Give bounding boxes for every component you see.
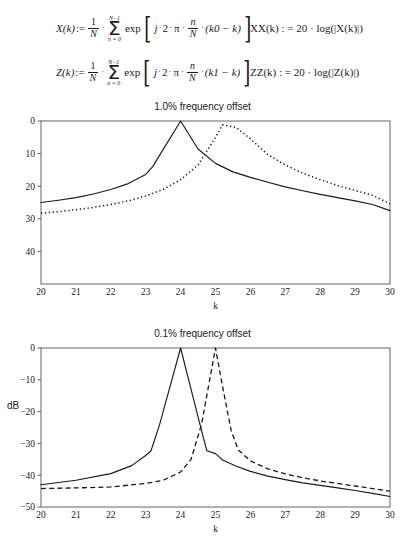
x-tick-label: 21 xyxy=(71,287,81,297)
formula-x-lhs: X(k) xyxy=(56,22,75,34)
formula-z-arg-pi: π xyxy=(173,66,181,78)
formula-z-frac-denominator: N xyxy=(88,72,99,84)
formula-x-exponent-argument: j · 2 · π · n N · (k0 − k) xyxy=(153,17,243,39)
y-tick-label: 10 xyxy=(26,149,36,159)
formula-block: X(k) := 1 N · N−1 Σ n = 0 exp [ j · 2 · … xyxy=(0,0,405,96)
x-tick-label: 28 xyxy=(315,287,325,297)
formula-x-arg-frac-denominator: N xyxy=(188,28,199,40)
series-line-solid xyxy=(41,121,390,211)
multiplication-dot-icon: · xyxy=(200,66,205,76)
formula-x-frac-denominator: N xyxy=(88,28,99,40)
x-tick-label: 22 xyxy=(106,287,116,297)
formula-z-arg-n-over-n: n N xyxy=(187,61,198,83)
multiplication-dot-icon: · xyxy=(157,66,162,76)
x-tick-label: 23 xyxy=(141,510,151,520)
x-tick-label: 21 xyxy=(71,510,81,520)
y-tick-label: −30 xyxy=(20,439,35,449)
y-tick-label: −50 xyxy=(20,502,35,512)
formula-z-arg-tail: (k1 − k) xyxy=(205,66,241,78)
x-tick-label: 23 xyxy=(141,287,151,297)
y-tick-label: −40 xyxy=(20,471,35,481)
formula-x-sum-lower-limit: n = 0 xyxy=(108,36,121,42)
formula-x-arg-tail: (k0 − k) xyxy=(205,22,241,34)
formula-x-arg-n-over-n: n N xyxy=(188,17,199,39)
formula-zz-text: ZZ(k) : = 20 · log(|Z(k)|) xyxy=(250,66,359,78)
formula-z-lhs: Z(k) xyxy=(56,66,74,78)
y-tick-label: 0 xyxy=(30,343,35,353)
x-tick-label: 20 xyxy=(36,287,46,297)
x-axis-title: k xyxy=(213,524,218,534)
formula-x-summation: N−1 Σ n = 0 xyxy=(108,15,121,42)
formula-x-exp-function: exp xyxy=(125,22,141,34)
series-line-dotted xyxy=(41,125,390,213)
formula-row-x-definition: X(k) := 1 N · N−1 Σ n = 0 exp [ j · 2 · … xyxy=(0,6,405,50)
multiplication-dot-icon: · xyxy=(100,66,105,76)
summation-sigma-icon: Σ xyxy=(107,64,120,81)
formula-x-frac-numerator: 1 xyxy=(89,17,98,28)
formula-x-arg-pi: π xyxy=(173,22,181,34)
multiplication-dot-icon: · xyxy=(158,22,163,32)
left-square-bracket-icon: [ xyxy=(144,16,151,40)
x-tick-label: 26 xyxy=(246,287,256,297)
formula-zz-definition: ZZ(k) : = 20 · log(|Z(k)|) xyxy=(250,50,359,94)
formula-z-arg-frac-numerator: n xyxy=(188,61,197,72)
formula-x-arg-frac-numerator: n xyxy=(189,17,198,28)
x-tick-label: 20 xyxy=(36,510,46,520)
multiplication-dot-icon: · xyxy=(168,22,173,32)
x-tick-label: 29 xyxy=(350,510,360,520)
formula-z-frac-numerator: 1 xyxy=(88,61,97,72)
summation-sigma-icon: Σ xyxy=(108,20,121,37)
formula-z-summation: N−1 Σ n = 0 xyxy=(107,59,120,86)
formula-row-z-definition: Z(k) := 1 N · N−1 Σ n = 0 exp [ j · 2 · … xyxy=(0,50,405,94)
y-tick-label: −10 xyxy=(20,375,35,385)
formula-x-assign: := xyxy=(75,22,86,34)
x-tick-label: 25 xyxy=(211,510,221,520)
x-tick-label: 28 xyxy=(315,510,325,520)
series-line-dashed xyxy=(41,348,390,491)
x-tick-label: 30 xyxy=(385,510,395,520)
formula-xx-text: XX(k) : = 20 · log(|X(k)|) xyxy=(250,22,363,34)
chart-1-percent-offset: 1.0% frequency offset 202122232425262728… xyxy=(0,100,405,315)
formula-z-one-over-n: 1 N xyxy=(88,61,99,83)
y-tick-label: 30 xyxy=(26,214,36,224)
chart-1-plot-area: 2021222324252627282930010203040k xyxy=(0,100,405,315)
x-tick-label: 24 xyxy=(176,287,186,297)
multiplication-dot-icon: · xyxy=(200,22,205,32)
multiplication-dot-icon: · xyxy=(180,66,185,76)
y-tick-label: 0 xyxy=(30,116,35,126)
multiplication-dot-icon: · xyxy=(101,22,106,32)
y-tick-label: −20 xyxy=(20,407,35,417)
x-tick-label: 27 xyxy=(281,287,291,297)
formula-x-one-over-n: 1 N xyxy=(88,17,99,39)
x-tick-label: 29 xyxy=(350,287,360,297)
y-axis-title: dB xyxy=(7,400,20,411)
series-line-solid xyxy=(41,348,390,497)
left-square-bracket-icon: [ xyxy=(144,60,151,84)
formula-z-exp-function: exp xyxy=(124,66,140,78)
formula-x-definition: X(k) := 1 N · N−1 Σ n = 0 exp [ j · 2 · … xyxy=(56,6,253,50)
y-tick-label: 40 xyxy=(26,247,36,257)
formula-z-exponent-argument: j · 2 · π · n N · (k1 − k) xyxy=(152,61,242,83)
formula-z-assign: := xyxy=(74,66,85,78)
x-tick-label: 25 xyxy=(211,287,221,297)
y-tick-label: 20 xyxy=(26,182,36,192)
multiplication-dot-icon: · xyxy=(168,66,173,76)
formula-z-arg-frac-denominator: N xyxy=(187,72,198,84)
x-tick-label: 26 xyxy=(246,510,256,520)
chart-2-plot-area: 20212223242526272829300−10−20−30−40−50kd… xyxy=(0,325,405,554)
x-axis-title: k xyxy=(213,301,218,311)
formula-z-sum-lower-limit: n = 0 xyxy=(107,80,120,86)
x-tick-label: 30 xyxy=(385,287,395,297)
x-tick-label: 27 xyxy=(281,510,291,520)
x-tick-label: 22 xyxy=(106,510,116,520)
formula-xx-definition: XX(k) : = 20 · log(|X(k)|) xyxy=(250,6,363,50)
formula-z-definition: Z(k) := 1 N · N−1 Σ n = 0 exp [ j · 2 · … xyxy=(56,50,252,94)
chart-0-1-percent-offset: 0.1% frequency offset 202122232425262728… xyxy=(0,325,405,554)
multiplication-dot-icon: · xyxy=(181,22,186,32)
x-tick-label: 24 xyxy=(176,510,186,520)
